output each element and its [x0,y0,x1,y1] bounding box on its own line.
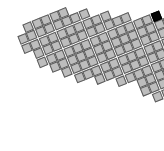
tile-board [0,0,164,151]
